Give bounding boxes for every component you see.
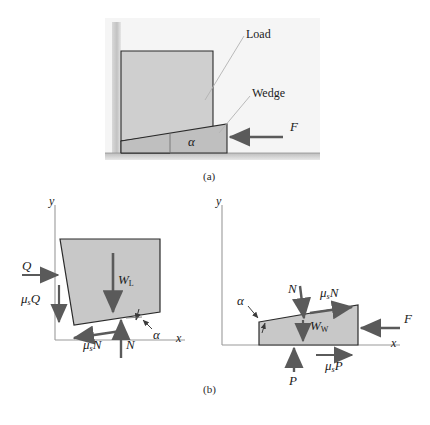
friction-mu-s-N-label: μsN (83, 337, 101, 353)
left-alpha-leader (143, 320, 152, 329)
panel-a-alpha-label: α (188, 134, 195, 150)
load-label: Load (246, 27, 271, 42)
friction-mu-s-P-label: μsP (325, 358, 343, 374)
right-friction-mu-s-N-label: μsN (320, 285, 338, 301)
normal-N-label: N (126, 337, 135, 353)
right-alpha-leader (248, 306, 258, 318)
panel-a-group (105, 18, 320, 160)
left-y-axis-label: y (49, 194, 54, 209)
ground (105, 153, 320, 160)
force-F-label: F (290, 119, 298, 135)
normal-P-label: P (289, 373, 297, 389)
panel-b-right-group (222, 205, 400, 372)
caption-b: (b) (203, 383, 216, 395)
figure-wedge-load: Load Wedge F α (a) y x Q μsQ WL μsN N α … (0, 0, 430, 425)
left-alpha-label: α (153, 327, 160, 343)
right-x-axis-label: x (391, 336, 396, 351)
force-Q-label: Q (22, 258, 31, 274)
right-normal-N-label: N (288, 281, 297, 297)
right-wedge-block (259, 305, 358, 345)
right-normal-N-arrow (300, 286, 304, 318)
right-force-F-label: F (404, 311, 412, 327)
weight-load-label: WL (118, 272, 134, 288)
force-mu-s-Q-label: μsQ (21, 291, 40, 307)
left-block (60, 239, 160, 325)
right-alpha-label: α (237, 293, 244, 309)
right-y-axis-label: y (216, 194, 221, 209)
caption-a: (a) (203, 170, 215, 182)
figure-canvas (0, 0, 430, 425)
left-x-axis-label: x (176, 331, 181, 346)
wall (112, 22, 121, 156)
load-block (121, 51, 213, 141)
panel-b-left-group (22, 205, 185, 358)
wedge-label: Wedge (252, 86, 285, 101)
weight-wedge-label: WW (310, 318, 328, 334)
